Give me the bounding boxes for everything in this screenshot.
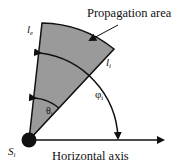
le-label: le bbox=[27, 23, 33, 37]
li-label: li bbox=[106, 56, 111, 70]
propagation-sector bbox=[29, 23, 114, 140]
area-label: Propagation area bbox=[87, 6, 172, 20]
propagation-diagram: Propagation area le li θi φi Si Horizont… bbox=[0, 0, 192, 165]
source-dot bbox=[22, 133, 37, 148]
source-label: Si bbox=[8, 145, 16, 159]
axis-label: Horizontal axis bbox=[52, 149, 129, 163]
area-pointer-arrow bbox=[90, 25, 118, 40]
